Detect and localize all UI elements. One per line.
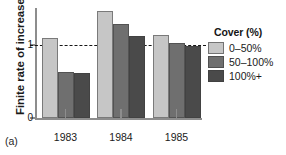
figure-panel-a: Finite rate of increase 01 198319841985 …: [0, 0, 286, 155]
legend-label-2: 50–100%: [229, 56, 273, 68]
bar-1983-series-1: [42, 38, 58, 118]
x-tick-label-1983: 1983: [46, 131, 86, 143]
legend: Cover (%) 0–50%50–100%100%+: [208, 26, 286, 83]
bar-1983-series-3: [74, 73, 90, 118]
plot-area: 01 198319841985: [36, 8, 202, 119]
bar-1985-series-2: [169, 43, 185, 118]
y-axis-line: [35, 8, 37, 119]
bar-1984-series-3: [129, 36, 145, 118]
panel-label: (a): [5, 135, 18, 147]
legend-swatch-2: [208, 56, 224, 68]
y-axis-title: Finite rate of increase: [13, 0, 27, 115]
legend-label-1: 0–50%: [229, 42, 262, 54]
legend-item-2: 50–100%: [208, 55, 286, 68]
x-tick-mark: [176, 109, 177, 118]
x-axis-line: [35, 118, 202, 120]
legend-title: Cover (%): [214, 26, 286, 38]
x-tick-mark: [120, 109, 121, 118]
y-tick-label: 0: [19, 113, 33, 123]
x-tick-label-1984: 1984: [101, 131, 141, 143]
legend-label-3: 100%+: [229, 70, 262, 82]
legend-item-1: 0–50%: [208, 41, 286, 54]
legend-swatch-1: [208, 42, 224, 54]
bar-1985-series-3: [185, 46, 201, 118]
bar-1984-series-2: [113, 24, 129, 118]
legend-swatch-3: [208, 70, 224, 82]
bar-1984-series-1: [97, 11, 113, 118]
legend-rows: 0–50%50–100%100%+: [208, 41, 286, 82]
legend-item-3: 100%+: [208, 69, 286, 82]
x-tick-label-1985: 1985: [157, 131, 197, 143]
bar-1985-series-1: [153, 35, 169, 118]
x-tick-mark: [65, 109, 66, 118]
